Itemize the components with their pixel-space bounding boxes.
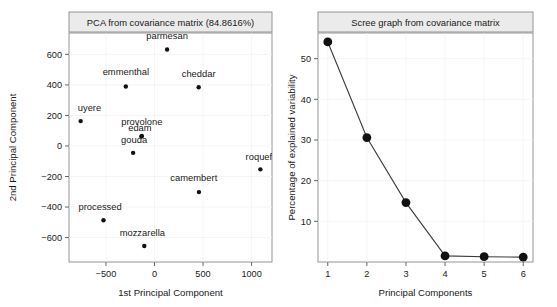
svg-text:10: 10	[301, 217, 311, 227]
svg-text:0: 0	[57, 141, 62, 151]
svg-text:6: 6	[521, 269, 526, 279]
scree-data-point	[402, 198, 411, 207]
pca-data-point	[196, 85, 200, 89]
svg-text:−500: −500	[96, 269, 117, 279]
scree-data-layer	[323, 38, 527, 262]
pca-data-layer: parmesanemmenthalcheddaruyereprovoloneed…	[78, 30, 273, 248]
scree-y-axis-title: Percentage of explained variability	[286, 74, 297, 220]
pca-point-label: cheddar	[182, 68, 216, 79]
svg-text:2: 2	[364, 269, 369, 279]
svg-text:−400: −400	[41, 202, 62, 212]
pca-point-label: edam	[128, 122, 152, 133]
svg-text:1000: 1000	[241, 269, 261, 279]
svg-text:1: 1	[325, 269, 330, 279]
scree-data-point	[362, 133, 371, 142]
pca-title: PCA from covariance matrix (84.8616%)	[87, 17, 254, 28]
svg-text:20: 20	[301, 176, 311, 186]
svg-text:0: 0	[152, 269, 157, 279]
svg-text:600: 600	[47, 50, 62, 60]
scree-data-point	[480, 252, 489, 261]
scree-gridlines	[318, 33, 533, 262]
svg-text:−200: −200	[41, 172, 62, 182]
scree-x-axis-title: Principal Components	[379, 287, 473, 298]
scree-series-line	[328, 42, 523, 257]
svg-text:5: 5	[482, 269, 487, 279]
pca-data-point	[124, 84, 128, 88]
figure-canvas: PCA from covariance matrix (84.8616%) −5…	[0, 0, 557, 307]
pca-x-axis-title: 1st Principal Component	[118, 287, 223, 298]
pca-svg: PCA from covariance matrix (84.8616%) −5…	[0, 0, 281, 307]
pca-data-point	[131, 151, 135, 155]
pca-point-label: emmenthal	[103, 66, 149, 77]
scree-data-point	[323, 38, 332, 47]
pca-point-label: processed	[78, 201, 121, 212]
pca-data-point	[197, 190, 201, 194]
scree-plot-frame	[318, 33, 533, 262]
pca-data-point	[142, 244, 146, 248]
svg-text:500: 500	[195, 269, 210, 279]
svg-text:400: 400	[47, 80, 62, 90]
scree-tick-labels: 1234561020304050	[301, 54, 526, 279]
pca-data-point	[165, 47, 169, 51]
pca-gridlines	[69, 33, 272, 262]
svg-text:40: 40	[301, 95, 311, 105]
pca-tick-labels: −500050010006004002000−200−400−600	[41, 50, 262, 279]
pca-point-label: roquef	[246, 151, 273, 162]
svg-text:50: 50	[301, 54, 311, 64]
svg-text:4: 4	[442, 269, 447, 279]
scree-data-point	[519, 253, 528, 262]
pca-y-axis-title: 2nd Principal Component	[7, 93, 18, 201]
pca-point-label: uyere	[78, 102, 101, 113]
svg-text:3: 3	[403, 269, 408, 279]
pca-data-point	[78, 119, 82, 123]
scree-plot-panel: Scree graph from covariance matrix 12345…	[281, 0, 557, 307]
scree-tickmarks	[314, 59, 523, 266]
svg-text:200: 200	[47, 111, 62, 121]
pca-data-point	[258, 167, 262, 171]
pca-point-label: gouda	[121, 134, 148, 145]
pca-plot-frame	[69, 33, 272, 262]
scree-title: Scree graph from covariance matrix	[351, 17, 500, 28]
pca-data-point	[101, 218, 105, 222]
pca-point-label: mozzarella	[120, 227, 166, 238]
scree-data-point	[441, 251, 450, 260]
svg-text:30: 30	[301, 135, 311, 145]
scree-svg: Scree graph from covariance matrix 12345…	[281, 0, 557, 307]
pca-scatter-panel: PCA from covariance matrix (84.8616%) −5…	[0, 0, 281, 307]
svg-text:−600: −600	[41, 233, 62, 243]
pca-point-label: camembert	[170, 172, 217, 183]
